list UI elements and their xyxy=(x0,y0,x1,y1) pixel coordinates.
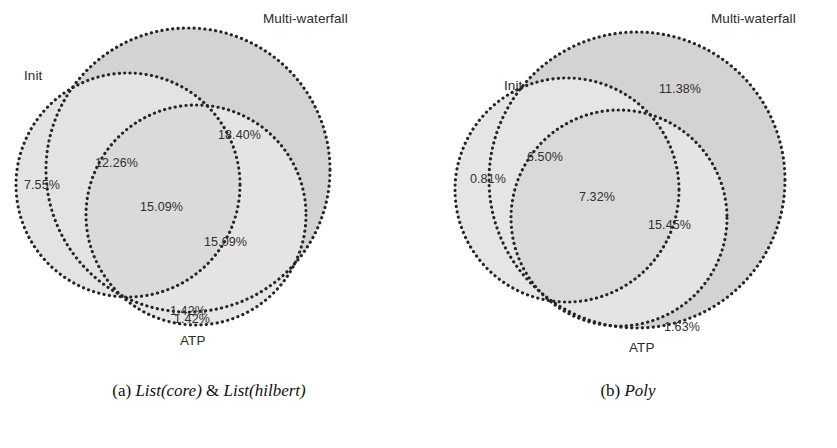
set-label-init-b: Init xyxy=(504,78,522,93)
caption-b: (b) Poly xyxy=(419,381,837,401)
caption-a-paren-1: (core) xyxy=(161,381,202,400)
caption-a-prefix: (a) xyxy=(112,381,131,400)
region-value-all-three-b: 7.32% xyxy=(579,190,615,204)
venn-figure-pair: Multi-waterfall Init ATP 18.40% 7.55% 12… xyxy=(0,0,837,448)
set-label-atp-b: ATP xyxy=(629,340,655,355)
caption-b-italic-1: Poly xyxy=(624,381,655,400)
region-value-atp-edge-b: 1.63% xyxy=(664,320,700,334)
region-value-atp-multi-waterfall-a: 15.09% xyxy=(204,235,247,249)
venn-panel-a: Multi-waterfall Init ATP 18.40% 7.55% 12… xyxy=(0,0,418,448)
region-value-all-three-a: 15.09% xyxy=(140,200,183,214)
caption-a-paren-2: (hilbert) xyxy=(249,381,306,400)
region-value-init-multi-waterfall-b: 6.50% xyxy=(527,150,563,164)
caption-b-prefix: (b) xyxy=(600,381,620,400)
set-label-multi-waterfall-b: Multi-waterfall xyxy=(711,11,796,26)
caption-a-italic-2: List xyxy=(224,381,250,400)
set-label-init-a: Init xyxy=(24,68,42,83)
region-value-init-only-b: 0.81% xyxy=(470,172,506,186)
region-value-init-multi-waterfall-a: 12.26% xyxy=(95,156,138,170)
set-label-multi-waterfall-a: Multi-waterfall xyxy=(263,11,348,26)
region-value-multi-waterfall-only-a: 18.40% xyxy=(218,128,261,142)
venn-panel-b: Multi-waterfall Init ATP 11.38% 0.81% 6.… xyxy=(419,0,837,448)
set-label-atp-a: ATP xyxy=(180,333,206,348)
caption-a-amp: & xyxy=(206,381,219,400)
region-value-atp-edge-overlap-a: 1.42% xyxy=(174,312,210,326)
region-value-multi-waterfall-only-b: 11.38% xyxy=(659,82,701,96)
region-value-atp-multi-waterfall-b: 15.45% xyxy=(648,218,691,232)
caption-a-italic-1: List xyxy=(135,381,161,400)
caption-a: (a) List(core) & List(hilbert) xyxy=(0,381,418,401)
region-value-init-only-a: 7.55% xyxy=(24,178,60,192)
